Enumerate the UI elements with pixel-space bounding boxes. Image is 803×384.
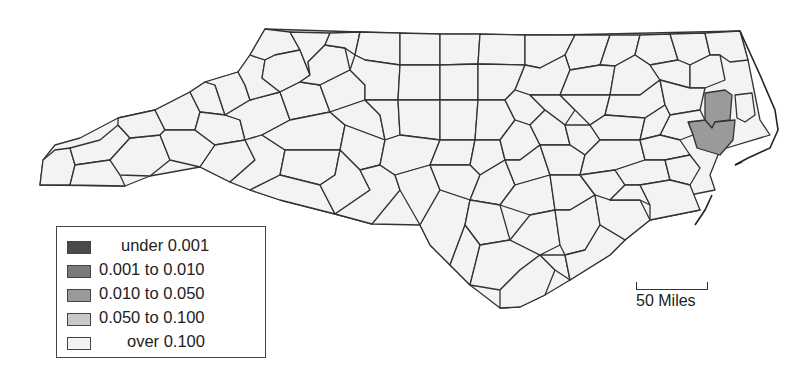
legend-item (67, 285, 91, 305)
legend-label: 0.010 to 0.050 (99, 284, 205, 303)
legend-swatch-icon (67, 337, 91, 350)
legend-label: 0.050 to 0.100 (99, 308, 205, 327)
legend-label: over 0.100 (127, 332, 205, 351)
legend-label: under 0.001 (121, 236, 209, 255)
legend-item (67, 309, 91, 329)
legend-item (67, 333, 91, 353)
legend-swatch-icon (67, 313, 91, 326)
legend-item (67, 237, 91, 257)
scale-bar-line (636, 282, 708, 290)
legend-swatch-icon (67, 241, 91, 254)
legend-swatch-icon (67, 289, 91, 302)
map-legend: under 0.001 0.001 to 0.010 0.010 to 0.05… (56, 226, 266, 358)
scale-label: 50 Miles (636, 292, 696, 310)
legend-label: 0.001 to 0.010 (99, 260, 205, 279)
legend-swatch-icon (67, 265, 91, 278)
legend-item (67, 261, 91, 281)
